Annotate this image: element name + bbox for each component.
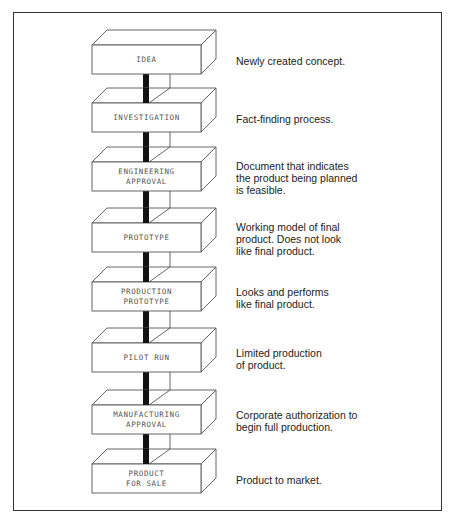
- stage-description-line: Newly created concept.: [236, 55, 436, 67]
- stage-description-line: is feasible.: [236, 184, 436, 196]
- stage-description: Limited productionof product.: [236, 344, 436, 373]
- stage-description-line: like final product.: [236, 298, 436, 310]
- box-top-face: [92, 390, 216, 405]
- box-top-face: [92, 328, 216, 343]
- stage-label-line: FOR SALE: [126, 479, 167, 489]
- stage-label-line: IDEA: [136, 55, 156, 65]
- box-top-face: [92, 88, 216, 103]
- stage-label-line: MANUFACTURING: [113, 410, 180, 420]
- stage-description: Corporate authorization tobegin full pro…: [236, 406, 436, 435]
- stage-label: ENGINEERINGAPPROVAL: [92, 162, 201, 191]
- stage-label-line: PROTOTYPE: [123, 233, 169, 243]
- stage-label-line: ENGINEERING: [118, 167, 174, 177]
- connector-post-top: [143, 449, 149, 464]
- box-top-face: [92, 30, 216, 45]
- connector-post-top: [143, 88, 149, 103]
- stage-description: Looks and performslike final product.: [236, 283, 436, 312]
- stage-description-line: Limited production: [236, 347, 436, 359]
- connector-post-top: [143, 390, 149, 405]
- stage-label: MANUFACTURINGAPPROVAL: [92, 405, 201, 434]
- stage-description: Newly created concept.: [236, 46, 436, 75]
- stage-description: Document that indicatesthe product being…: [236, 163, 436, 192]
- stage-label: PILOT RUN: [92, 343, 201, 372]
- stage-description-line: Product to market.: [236, 474, 436, 486]
- stage-label: PROTOTYPE: [92, 223, 201, 252]
- box-top-face: [92, 147, 216, 162]
- stage-label-line: PRODUCTION: [121, 287, 172, 297]
- connector-post-top: [143, 267, 149, 282]
- stage-description-line: the product being planned: [236, 172, 436, 184]
- flow-diagram: [0, 0, 458, 528]
- connector-post-top: [143, 208, 149, 223]
- stage-label-line: PILOT RUN: [123, 353, 169, 363]
- stage-label-line: APPROVAL: [126, 177, 167, 187]
- stage-label: PRODUCTIONPROTOTYPE: [92, 282, 201, 311]
- stage-label: IDEA: [92, 45, 201, 74]
- stage-description-line: of product.: [236, 359, 436, 371]
- box-top-face: [92, 449, 216, 464]
- stage-label-line: INVESTIGATION: [113, 113, 180, 123]
- stage-description-line: begin full production.: [236, 421, 436, 433]
- stage-description: Fact-finding process.: [236, 104, 436, 133]
- stage-description-line: like final product.: [236, 245, 436, 257]
- box-top-face: [92, 267, 216, 282]
- stage-description-line: Fact-finding process.: [236, 113, 436, 125]
- stage-description-line: product. Does not look: [236, 233, 436, 245]
- stage-description-line: Corporate authorization to: [236, 409, 436, 421]
- stage-description-line: Looks and performs: [236, 286, 436, 298]
- stage-label-line: PRODUCT: [129, 469, 165, 479]
- stage-description: Working model of finalproduct. Does not …: [236, 224, 436, 253]
- stage-description-line: Working model of final: [236, 221, 436, 233]
- stage-label: INVESTIGATION: [92, 103, 201, 132]
- connector-post-top: [143, 147, 149, 162]
- stage-label-line: APPROVAL: [126, 420, 167, 430]
- stage-label-line: PROTOTYPE: [123, 297, 169, 307]
- connector-post-top: [143, 328, 149, 343]
- stage-description-line: Document that indicates: [236, 160, 436, 172]
- box-top-face: [92, 208, 216, 223]
- stage-description: Product to market.: [236, 465, 436, 494]
- stage-label: PRODUCTFOR SALE: [92, 464, 201, 493]
